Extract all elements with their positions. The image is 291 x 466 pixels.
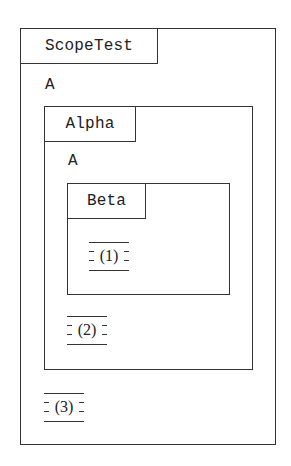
dash-left-upper	[44, 402, 49, 403]
placeholder-bottom-rule	[67, 344, 107, 345]
placeholder-bottom-rule	[89, 270, 129, 271]
dash-right-upper	[102, 325, 107, 326]
scope-title-scopetest: ScopeTest	[20, 28, 158, 64]
dash-left-lower	[89, 260, 94, 261]
placeholder-2: (2)	[67, 316, 107, 346]
placeholder-bottom-rule	[44, 421, 84, 422]
scope-title-alpha: Alpha	[44, 106, 136, 142]
placeholder-3-label: (3)	[50, 399, 78, 415]
placeholder-1: (1)	[89, 242, 129, 272]
placeholder-1-label: (1)	[95, 248, 123, 264]
dash-left-upper	[89, 251, 94, 252]
placeholder-top-rule	[89, 242, 129, 243]
declaration-a-alpha: A	[68, 153, 78, 169]
placeholder-top-rule	[44, 393, 84, 394]
dash-right-lower	[124, 260, 129, 261]
scope-title-beta: Beta	[67, 183, 146, 219]
placeholder-2-label: (2)	[73, 322, 101, 338]
dash-left-lower	[67, 334, 72, 335]
placeholder-3: (3)	[44, 393, 84, 423]
placeholder-top-rule	[67, 316, 107, 317]
declaration-a-outer: A	[45, 77, 55, 93]
dash-left-lower	[44, 411, 49, 412]
dash-right-lower	[79, 411, 84, 412]
dash-left-upper	[67, 325, 72, 326]
dash-right-upper	[124, 251, 129, 252]
dash-right-upper	[79, 402, 84, 403]
dash-right-lower	[102, 334, 107, 335]
